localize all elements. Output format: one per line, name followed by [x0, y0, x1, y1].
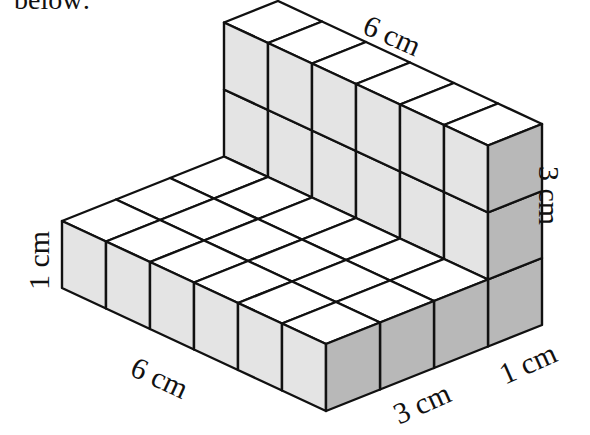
- label-floor-height: 1 cm: [22, 231, 56, 290]
- label-wall-height: 3 cm: [532, 166, 566, 225]
